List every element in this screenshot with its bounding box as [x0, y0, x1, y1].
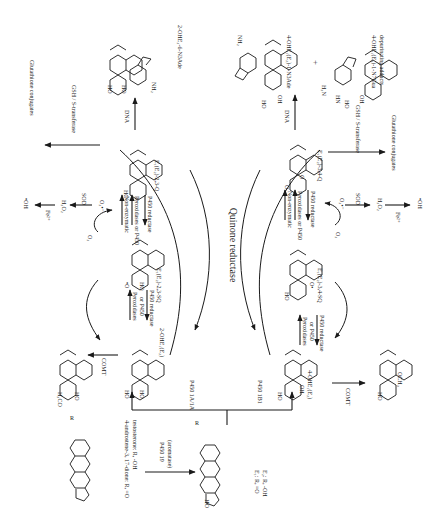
left-peroxidase-1: Peroxidases: [132, 292, 138, 321]
adduct-ho-1: HO: [107, 85, 113, 94]
gua-ho: HO: [344, 100, 350, 109]
left-nonenzymatic: Non-enzymatic: [124, 196, 130, 233]
right-nonenzymatic: Non-enzymatic: [287, 191, 293, 228]
4-ohe-label: 4-OHE₁(E₂): [306, 370, 313, 399]
left-branch: HO HO 2-OHE₁(E₂) COMT H₃CO HO Peroxidase…: [23, 25, 183, 407]
right-peroxidase-1b: or P450: [309, 322, 315, 341]
aromatase-step: P450 19 (aromatase): [145, 440, 195, 472]
4-ohe-n7gua-adduct: H₂N HN HO OH 4-OHE₁(E₂)-1-N7Gua depurina…: [321, 35, 397, 109]
right-superoxide: O₂•⁻: [339, 198, 345, 210]
2-3-sq-label: E₁(E₂)-2,3-SQ: [155, 268, 162, 303]
gua-hn: HN: [335, 95, 341, 104]
4-methoxy-molecule: HO OCH₃: [377, 350, 412, 401]
3-4-sq-label: E₁(E₂)-3,4-SQ: [316, 268, 323, 303]
precursor-r-label: R: [70, 415, 74, 421]
q-r-o1: O: [284, 185, 290, 190]
right-dna: DNA: [284, 110, 290, 124]
left-h2o2: H₂O₂: [61, 200, 67, 213]
quinone-ho: HO: [123, 190, 129, 199]
4-ohe-ho: HO: [277, 392, 283, 401]
sq-ho: HO: [139, 282, 145, 291]
right-peroxidase-2: Peroxidases or P450: [297, 191, 303, 240]
left-p450-reductase-1: P450 reductase: [149, 290, 155, 327]
n3ade-label: 4-OHE₁(E₂)-1-N3Ade: [285, 35, 292, 89]
comt-left-label: COMT: [101, 358, 107, 376]
left-gsh: GSH / S-transferase: [71, 85, 77, 133]
4-ohe-molecule: HO OH 4-OHE₁(E₂): [277, 350, 317, 401]
left-sod: SOD: [81, 193, 87, 206]
adduct-r-ho: HO: [261, 100, 267, 109]
left-oh-radical: •OH: [23, 198, 29, 209]
n7gua-label: 4-OHE₁(E₂)-1-N7Gua: [370, 35, 377, 89]
aromatase-enzyme-label: P450 19: [159, 442, 165, 462]
right-h2o2: H₂O₂: [377, 198, 383, 211]
sq-r-radical: O•: [309, 282, 315, 288]
left-peroxidase-1b: or P450: [139, 297, 145, 316]
sq-radical-o: •O: [124, 282, 130, 289]
estrogen-molecule: R HO E₁: R, =O E₂: R, -OH: [195, 420, 268, 509]
methoxy-ho: HO: [74, 392, 80, 401]
4-methoxy-och3: OCH₃: [397, 372, 403, 387]
estrogen-r-label: R: [195, 420, 199, 426]
2-ohe-adduct-molecule: HO HO NH₂ 2-OHE₂-6-N3Ade: [107, 25, 183, 95]
right-cycle-arrow: [335, 282, 347, 338]
2-methoxy-molecule: H₃CO HO: [57, 350, 92, 407]
aromatase-note-label: (aromatase): [166, 440, 173, 468]
adduct-ho-2: HO: [121, 85, 127, 94]
4-ohe-oh: OH: [299, 385, 305, 394]
methoxy-h3co: H₃CO: [57, 392, 63, 407]
2-3-quinone-molecule: HO E₁(E₂)-2,3-Q: [123, 150, 162, 200]
plus-sign: +: [311, 60, 321, 65]
right-p450-reductase-1: P450 reductase: [319, 315, 325, 352]
gua-oh: OH: [359, 95, 365, 104]
left-superoxide: O₂•⁻: [99, 200, 105, 212]
right-sod: SOD: [355, 193, 361, 206]
2-ohe-label: 2-OHE₁(E₂): [158, 328, 165, 357]
right-p450-reductase-2: P450 reductase: [310, 191, 316, 228]
estrogen-metabolism-pathway-diagram: Quinone reductase R 4-androstene-3, 17-d…: [0, 0, 440, 515]
3-4-sq-molecule: HO O• E₁(E₂)-3,4-SQ: [284, 250, 323, 303]
estrogen-e1-label: E₁: R, =O: [254, 470, 260, 494]
estrogen-ho-label: HO: [204, 499, 210, 508]
p450-1a-label: P450 1A/1A: [189, 380, 195, 411]
right-gsh: GSH / S-transferase: [355, 105, 361, 153]
comt-right-label: COMT: [345, 388, 351, 406]
q-r-o2: O: [299, 175, 305, 180]
right-branch: HO OH 4-OHE₁(E₂) COMT HO OCH₃ Peroxidase…: [235, 35, 423, 406]
adduct-r-oh: OH: [277, 95, 283, 104]
4-ohe-n3ade-adduct: NH₂ HO OH 4-OHE₁(E₂)-1-N3Ade: [235, 35, 297, 109]
p450-1b1-label: P450 1B1: [257, 380, 263, 404]
2-ohe-ho-1: HO: [124, 390, 130, 399]
4-methoxy-ho: HO: [377, 392, 383, 401]
3-4-q-label: E₁(E₂)-3,4-Q: [316, 150, 323, 182]
left-cycle-arrow: [86, 280, 100, 340]
left-p450-reductase-2: P450 reductase: [147, 196, 153, 233]
right-conjugates: Glutathione conjugates: [391, 115, 397, 171]
precursor-name-line1: 4-androstene-3, 17-dione: R, =O: [124, 420, 130, 499]
right-o2: O₂: [335, 232, 341, 238]
left-o2: O₂: [87, 235, 93, 241]
hydroxylation-branch: P450 1A/1A P450 1B1: [132, 380, 292, 425]
3-4-quinone-molecule: O O E₁(E₂)-3,4-Q: [284, 145, 323, 195]
2-ohe-molecule: HO HO 2-OHE₁(E₂): [124, 328, 165, 400]
precursor-molecule: R 4-androstene-3, 17-dione: R, =O testos…: [70, 415, 138, 501]
quinone-reductase-label: Quinone reductase: [228, 208, 239, 283]
right-fe2: Fe²⁺: [395, 212, 401, 223]
sq-r-ho: HO: [284, 292, 290, 301]
left-dna: DNA: [124, 110, 130, 124]
depurinating-adducts-label: depurinating adducts: [379, 35, 385, 86]
gua-h2n: H₂N: [321, 85, 327, 96]
left-peroxidase-2: Peroxidases or P450: [134, 196, 140, 245]
left-fe2: Fe²⁺: [45, 210, 51, 221]
right-oh-radical: •OH: [417, 198, 423, 209]
ade-nh2: NH₂: [237, 35, 243, 46]
estrogen-e2-label: E₂: R, -OH: [262, 470, 268, 497]
2-3-q-label: E₁(E₂)-2,3-Q: [153, 160, 160, 192]
2-ohe-adduct-label: 2-OHE₂-6-N3Ade: [177, 25, 183, 69]
2-ohe-ho-2: HO: [139, 390, 145, 399]
left-conjugates: Glutathione conjugates: [29, 60, 35, 116]
precursor-name-line2: testosterone: R, -OH: [132, 420, 138, 470]
adduct-nh2: NH₂: [151, 82, 157, 93]
right-peroxidase-1: Peroxidases: [302, 317, 308, 346]
